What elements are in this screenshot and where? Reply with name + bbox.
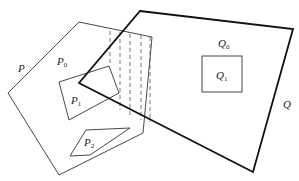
label-p: P xyxy=(17,62,25,74)
polygon-q xyxy=(79,11,293,172)
label-p1: P1 xyxy=(70,94,82,108)
label-q1: Q1 xyxy=(216,69,228,83)
label-p2: P2 xyxy=(83,136,95,150)
diagram-canvas: P P0 P1 P2 Q0 Q1 Q xyxy=(0,0,299,181)
polygon-p1 xyxy=(59,66,119,120)
polygon-p2 xyxy=(70,128,130,156)
label-q0: Q0 xyxy=(218,37,230,51)
label-q: Q xyxy=(283,98,291,110)
label-p0: P0 xyxy=(56,55,68,69)
